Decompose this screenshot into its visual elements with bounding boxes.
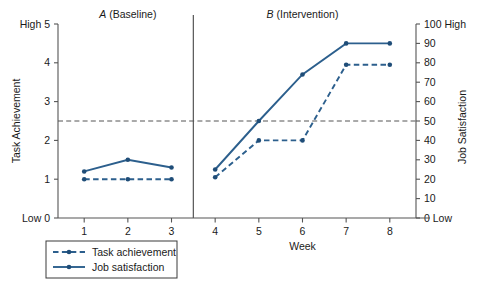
right-axis-tick-label: 10 — [424, 192, 436, 204]
x-axis-tick-label: 2 — [125, 225, 131, 237]
right-axis-tick-label: 70 — [424, 76, 436, 88]
left-axis-tick-label: 2 — [44, 134, 50, 146]
x-axis-tick-label: 5 — [256, 225, 262, 237]
data-point[interactable] — [213, 175, 218, 180]
data-point[interactable] — [300, 72, 305, 77]
legend-label-0[interactable]: Task achievement — [92, 246, 176, 258]
phase-label-a: A (Baseline) — [98, 8, 156, 20]
right-axis-tick-label: 50 — [424, 115, 436, 127]
data-point[interactable] — [344, 41, 349, 46]
data-point[interactable] — [82, 169, 87, 174]
data-point[interactable] — [82, 177, 87, 182]
right-axis-tick-label: 60 — [424, 95, 436, 107]
data-point[interactable] — [169, 165, 174, 170]
x-axis-tick-label: 3 — [169, 225, 175, 237]
data-point[interactable] — [213, 167, 218, 172]
data-point[interactable] — [388, 41, 393, 46]
data-point[interactable] — [169, 177, 174, 182]
left-axis-tick-label: 3 — [44, 95, 50, 107]
right-axis-tick-label: 30 — [424, 153, 436, 165]
right-axis-tick-label: 20 — [424, 173, 436, 185]
data-point[interactable] — [257, 119, 262, 124]
phase-label-b: B (Intervention) — [267, 8, 339, 20]
left-axis-tick-label: 1 — [44, 173, 50, 185]
right-axis-tick-label: 40 — [424, 134, 436, 146]
left-axis-tick-label: 4 — [44, 56, 50, 68]
data-point[interactable] — [257, 138, 262, 143]
ab-design-line-chart: 1234High 5Low 0Task Achievement102030405… — [0, 0, 485, 287]
left-axis-title: Task Achievement — [10, 79, 22, 164]
legend-marker — [67, 265, 72, 270]
left-axis-high-cap: High 5 — [20, 18, 51, 30]
x-axis-title: Week — [289, 240, 316, 252]
x-axis-tick-label: 8 — [387, 225, 393, 237]
series-line-job-satisfaction — [215, 43, 390, 169]
x-axis-tick-label: 4 — [212, 225, 218, 237]
data-point[interactable] — [126, 177, 131, 182]
left-axis-low-cap: Low 0 — [22, 212, 50, 224]
legend-label-1[interactable]: Job satisfaction — [92, 261, 165, 273]
data-point[interactable] — [300, 138, 305, 143]
data-point[interactable] — [344, 62, 349, 67]
x-axis-tick-label: 6 — [300, 225, 306, 237]
chart-container: 1234High 5Low 0Task Achievement102030405… — [0, 0, 485, 287]
legend-marker — [67, 250, 72, 255]
right-axis-title: Job Satisfaction — [456, 90, 468, 164]
x-axis-tick-label: 1 — [81, 225, 87, 237]
right-axis-high-cap: 100 High — [424, 18, 466, 30]
data-point[interactable] — [388, 62, 393, 67]
data-point[interactable] — [126, 158, 131, 163]
x-axis-tick-label: 7 — [343, 225, 349, 237]
right-axis-tick-label: 90 — [424, 37, 436, 49]
right-axis-tick-label: 80 — [424, 56, 436, 68]
